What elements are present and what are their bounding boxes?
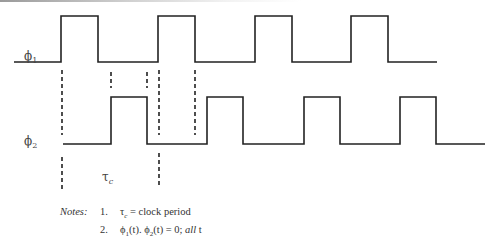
phi2-symbol: ϕ: [24, 134, 32, 148]
timing-diagram: [0, 0, 503, 239]
phi2-waveform: [63, 97, 485, 144]
phi1-symbol: ϕ: [24, 49, 32, 63]
note-emphasis: all: [185, 224, 196, 235]
note-text: = clock period: [127, 206, 190, 217]
phi1-waveform: [14, 16, 437, 62]
note-text: (t). ϕ: [129, 224, 150, 235]
note-number: 2.: [100, 223, 120, 236]
tau-subscript: c: [109, 177, 113, 186]
notes-title: Notes:: [60, 205, 100, 218]
notes-block: Notes:1.τc = clock period 2.ϕ1(t). ϕ2(t)…: [60, 205, 202, 239]
tau-c-label: τc: [102, 170, 113, 186]
note-row-1: Notes:1.τc = clock period: [60, 205, 202, 223]
note-number: 1.: [100, 205, 120, 218]
phi1-label: ϕ1: [24, 49, 37, 65]
phi2-label: ϕ2: [24, 134, 37, 150]
phi1-subscript: 1: [32, 56, 37, 65]
note-row-2: 2.ϕ1(t). ϕ2(t) = 0; all t: [60, 223, 202, 239]
tau-symbol: τ: [102, 170, 109, 184]
note-text: (t) = 0;: [153, 224, 185, 235]
note-text: t: [196, 224, 202, 235]
phi2-subscript: 2: [32, 141, 37, 150]
